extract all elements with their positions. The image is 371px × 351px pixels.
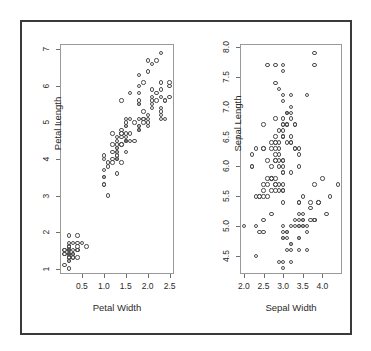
- data-point: [110, 131, 114, 135]
- y-tick-label: 4.5: [221, 248, 231, 264]
- data-point: [119, 135, 123, 139]
- y-tick-label: 8.0: [221, 39, 231, 55]
- data-point: [84, 244, 88, 248]
- y-tick: [56, 269, 60, 270]
- data-point: [128, 131, 132, 135]
- y-tick: [236, 47, 240, 48]
- y-tick-label: 7: [41, 41, 51, 57]
- y-tick: [236, 166, 240, 167]
- y-tick-label: 2: [41, 224, 51, 240]
- scatter-panel-petal: 0.51.01.52.02.51234567 Petal Width Petal…: [22, 22, 188, 333]
- data-point: [289, 111, 293, 115]
- data-point: [250, 152, 254, 156]
- data-point: [159, 106, 163, 110]
- x-axis-title-petal: Petal Width: [93, 302, 142, 313]
- x-tick-label: 4.0: [316, 281, 328, 291]
- x-tick-label: 2.0: [238, 281, 250, 291]
- data-point: [324, 212, 328, 216]
- x-tick: [148, 274, 149, 278]
- data-point: [269, 164, 273, 168]
- data-point: [110, 157, 114, 161]
- data-point: [273, 146, 277, 150]
- data-point: [305, 93, 309, 97]
- y-tick-label: 3: [41, 188, 51, 204]
- data-point: [273, 140, 277, 144]
- x-tick: [126, 274, 127, 278]
- data-point: [67, 266, 71, 270]
- data-point: [62, 252, 66, 256]
- y-tick: [56, 196, 60, 197]
- data-point: [261, 146, 265, 150]
- data-point: [273, 182, 277, 186]
- data-point: [297, 146, 301, 150]
- data-point: [167, 95, 171, 99]
- data-point: [281, 188, 285, 192]
- data-point: [289, 116, 293, 120]
- data-point: [328, 194, 332, 198]
- y-tick: [236, 196, 240, 197]
- x-tick: [82, 274, 83, 278]
- x-tick: [264, 274, 265, 278]
- data-point: [277, 182, 281, 186]
- x-tick-label: 3.5: [297, 281, 309, 291]
- x-tick: [283, 274, 284, 278]
- y-tick: [56, 232, 60, 233]
- data-point: [110, 160, 114, 164]
- data-point: [301, 194, 305, 198]
- data-point: [137, 128, 141, 132]
- data-point: [71, 255, 75, 259]
- data-point: [62, 263, 66, 267]
- data-point: [141, 80, 145, 84]
- data-point: [273, 116, 277, 120]
- y-tick-label: 6.5: [221, 129, 231, 145]
- data-point: [261, 182, 265, 186]
- data-point: [273, 176, 277, 180]
- data-point: [269, 176, 273, 180]
- x-tick-label: 2.5: [164, 281, 176, 291]
- y-tick: [56, 159, 60, 160]
- data-point: [320, 176, 324, 180]
- data-point: [75, 255, 79, 259]
- data-point: [297, 152, 301, 156]
- x-tick-label: 0.5: [76, 281, 88, 291]
- data-point: [146, 58, 150, 62]
- y-tick-label: 5: [41, 114, 51, 130]
- data-point: [297, 164, 301, 168]
- data-point: [289, 105, 293, 109]
- data-point: [312, 63, 316, 67]
- data-point: [273, 134, 277, 138]
- data-point: [281, 170, 285, 174]
- data-point: [269, 212, 273, 216]
- data-point: [67, 233, 71, 237]
- data-point: [316, 200, 320, 204]
- data-point: [281, 164, 285, 168]
- data-point: [106, 164, 110, 168]
- y-tick: [236, 226, 240, 227]
- data-point: [154, 98, 158, 102]
- y-tick-label: 6: [41, 78, 51, 94]
- x-tick-label: 3.0: [277, 281, 289, 291]
- y-axis-title-petal: Petal Length: [52, 89, 63, 159]
- data-point: [285, 122, 289, 126]
- data-point: [110, 142, 114, 146]
- y-axis-title-sepal: Sepal Length: [232, 89, 243, 159]
- data-point: [75, 233, 79, 237]
- x-tick: [170, 274, 171, 278]
- x-tick: [322, 274, 323, 278]
- data-point: [265, 63, 269, 67]
- y-tick-label: 7.0: [221, 99, 231, 115]
- data-point: [159, 87, 163, 91]
- x-tick-label: 1.0: [98, 281, 110, 291]
- x-tick-label: 1.5: [120, 281, 132, 291]
- data-point: [167, 80, 171, 84]
- data-point: [137, 117, 141, 121]
- data-point: [265, 194, 269, 198]
- data-point: [261, 122, 265, 126]
- data-point: [336, 182, 340, 186]
- data-point: [273, 152, 277, 156]
- scatter-panel-sepal: 2.02.53.03.54.04.55.05.56.06.57.07.58.0 …: [188, 22, 354, 333]
- plot-area-sepal: [240, 44, 342, 274]
- data-point: [297, 200, 301, 204]
- y-tick: [236, 256, 240, 257]
- data-point: [115, 171, 119, 175]
